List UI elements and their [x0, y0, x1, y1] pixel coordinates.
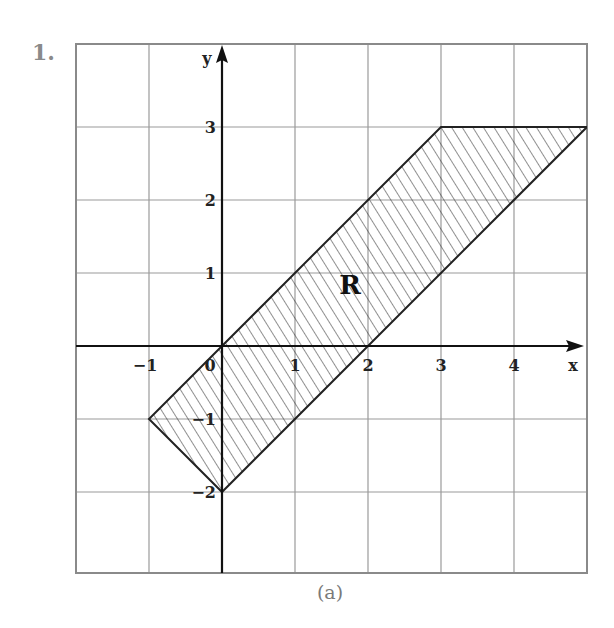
region-label: R	[339, 270, 361, 300]
x-tick-label: 3	[435, 356, 446, 375]
coordinate-plane-figure: −101234 321−1−2 x y R	[0, 0, 614, 628]
x-tick-label: 4	[508, 356, 519, 375]
y-tick-label: 3	[205, 118, 216, 137]
y-tick-label: 1	[205, 264, 216, 283]
y-tick-label: −1	[191, 410, 216, 429]
y-tick-label: −2	[191, 483, 216, 502]
y-axis-label: y	[201, 49, 212, 68]
y-tick-label: 2	[205, 191, 216, 210]
x-tick-label: 1	[289, 356, 300, 375]
x-axis-label: x	[568, 356, 578, 375]
x-tick-label: 0	[204, 356, 215, 375]
x-tick-label: 2	[362, 356, 373, 375]
cutoff-text-line	[76, 618, 596, 628]
figure-caption: (a)	[300, 581, 360, 603]
y-axis	[216, 45, 228, 573]
x-tick-label: −1	[133, 356, 158, 375]
